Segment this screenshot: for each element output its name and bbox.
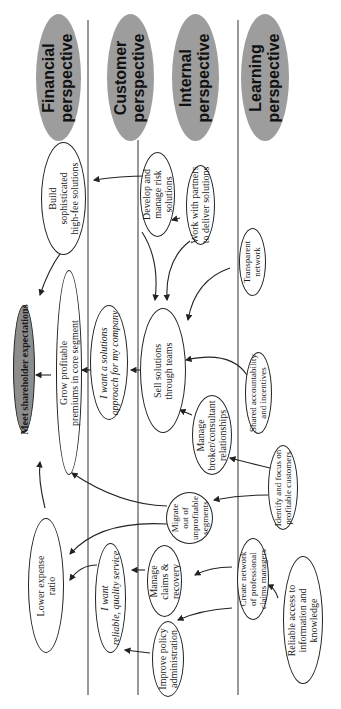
node-label-line: of professional (248, 549, 258, 609)
label: perspective (59, 33, 77, 122)
label: perspective (196, 33, 214, 122)
node-label-line: relationships (218, 400, 229, 470)
node-label-line: Reliable access to (287, 584, 298, 656)
edge-transparent-sell (188, 268, 230, 320)
node-lower-expense-ratio: Lower expenseratio (28, 518, 64, 653)
node-label-line: I want a solutions (98, 310, 109, 415)
label: Internal (178, 33, 196, 122)
edge-migrate-lower (70, 524, 167, 554)
node-sell-solutions-through-teams: Sell solutionsthrough teams (140, 308, 186, 433)
node-label-line: and incentives (259, 354, 269, 432)
edge-migrate-grow (72, 473, 167, 506)
node-label-line: knowledge (309, 584, 320, 656)
edge-identify-broker (230, 458, 270, 468)
goal-meet-shareholder-expectations: Meet shareholder expectations (13, 305, 35, 433)
node-label-line: Work with partners (190, 167, 201, 244)
node-label-line: Shared accountability (249, 354, 259, 432)
node-improve-policy-administration: Improve policyadministration (152, 621, 184, 697)
perspective-customer: Customerperspective (107, 14, 154, 141)
node-label-line: claims & (159, 563, 170, 599)
node-label-line: I want (100, 551, 111, 645)
node-transparent-network: Transparentnetwork (239, 228, 266, 296)
node-label-line: Migrate (170, 496, 180, 540)
node-label-line: solutions (163, 169, 174, 220)
perspective-learning: Learningperspective (241, 14, 289, 141)
node-want-solutions-approach: I want a solutionsapproach for my compan… (90, 305, 128, 420)
perspective-internal: Internalperspective (172, 14, 219, 141)
edge-network-policy (178, 608, 232, 620)
edge-lower-goal (40, 462, 45, 508)
node-manage-broker-relationships: Managebroker/consultantrelationships (192, 395, 232, 475)
node-label-line: Manage (148, 563, 159, 599)
node-label-line: Manage (196, 400, 207, 470)
node-label-line: through teams (163, 342, 174, 399)
edge-identify-migrate (214, 495, 268, 500)
node-label-line: sophisticated (58, 163, 69, 235)
node-label-line: Develop and (141, 169, 152, 220)
node-create-claims-network: Create networkof professionalclaims mana… (237, 538, 269, 620)
node-label-line: high-fee solutions (69, 163, 80, 235)
label: Learning (247, 33, 265, 122)
node-build-sophisticated-solutions: Buildsophisticatedhigh-fee solutions (41, 142, 86, 255)
node-label-line: unprofitable (190, 496, 200, 540)
node-grow-profitable-premiums: Grow profitablepremiums in core segment (56, 270, 82, 475)
node-label-line: Transparent (243, 241, 253, 284)
edge-develop-build (94, 176, 147, 180)
node-reliable-access-information: Reliable access toinformation andknowled… (283, 556, 323, 684)
node-label-line: manage risk (152, 169, 163, 220)
node-label-line: segments (200, 496, 210, 540)
perspective-financial: Financialperspective (36, 14, 81, 141)
node-label-line: ratio (46, 555, 57, 616)
node-label-line: approach for my company (109, 310, 120, 415)
label: perspective (131, 33, 149, 122)
node-label-line: Build (47, 163, 58, 235)
node-work-with-partners: Work with partnersto deliver solutions (186, 165, 215, 245)
edge-network-claims (195, 567, 232, 575)
node-label-line: reliable, quality service (111, 551, 122, 645)
label: perspective (265, 33, 283, 122)
node-manage-claims-recovery: Manageclaims &recovery (147, 545, 182, 617)
node-label-line: Lower expense (35, 555, 46, 616)
label: Customer (113, 33, 131, 122)
node-label-line: Improve policy (157, 628, 168, 689)
node-label-line: profitable customers (283, 449, 293, 526)
node-label-line: claims managers (258, 549, 268, 609)
node-develop-risk-solutions: Develop andmanage risksolutions (140, 152, 175, 237)
node-label-line: out of (180, 496, 190, 540)
node-label-line: Create network (238, 549, 248, 609)
node-label-line: broker/consultant (207, 400, 218, 470)
node-migrate-unprofitable-segments: Migrateout ofunprofitablesegments (166, 492, 213, 544)
node-want-reliable-service: I wantreliable, quality service (95, 543, 126, 653)
node-shared-accountability: Shared accountabilityand incentives (245, 352, 272, 434)
edge-develop-sell (142, 232, 156, 300)
edge-want-lower (70, 565, 97, 580)
node-label-line: Grow profitable (58, 320, 69, 426)
node-label-line: administration (168, 628, 179, 689)
node-label-line: network (253, 241, 263, 284)
label: Financial (41, 33, 59, 122)
node-identify-profitable-customers: Identify and focus onprofitable customer… (268, 445, 298, 530)
node-label-line: Identify and focus on (273, 449, 283, 526)
node-label-line: recovery (170, 563, 181, 599)
node-label-line: Sell solutions (152, 342, 163, 399)
edge-access-network (268, 585, 278, 598)
strategy-map: Financialperspective Customerperspective… (0, 0, 341, 709)
edge-broker-sell (180, 410, 192, 415)
node-label-line: premiums in core segment (69, 320, 80, 426)
node-label-line: information and (298, 584, 309, 656)
node-label-line: to deliver solutions (201, 167, 212, 244)
edge-partners-sell (167, 241, 190, 300)
label: Meet shareholder expectations (19, 304, 30, 434)
